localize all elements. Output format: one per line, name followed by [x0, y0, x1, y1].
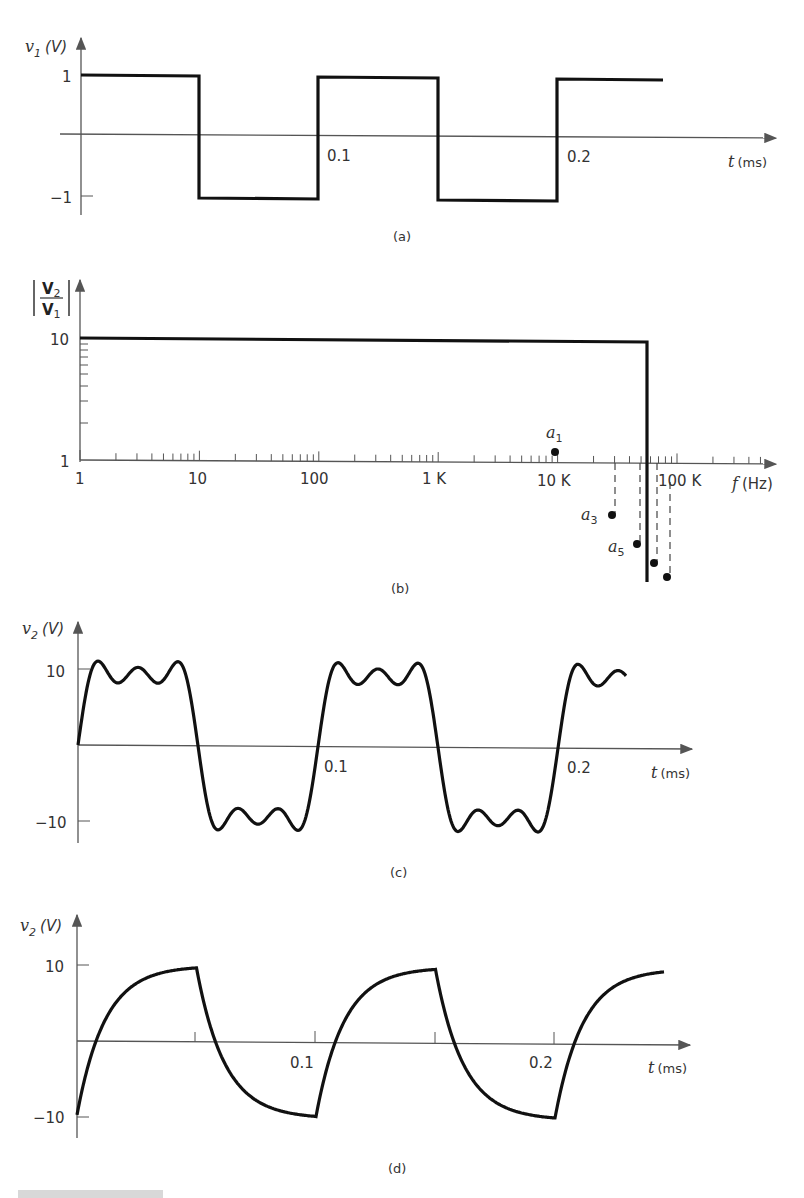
y-tick-label-neg: −10 [35, 814, 67, 832]
x-axis [60, 134, 776, 138]
x-axis-label: f(Hz) [731, 474, 773, 493]
svg-text:V2: V2 [42, 280, 61, 300]
panel-d: v2(V) 10 −10 0.1 0.2 t(ms) (d) [20, 915, 690, 1176]
y-tick-label-neg: −1 [50, 189, 72, 207]
y-axis-label: v1(V) [25, 37, 67, 60]
y-tick-label-neg: −10 [33, 1109, 65, 1127]
y-axis-label: v2(V) [20, 916, 62, 939]
harmonic-a9-dot [663, 573, 671, 581]
caption-b: (b) [391, 581, 409, 596]
x-tick-label-1k: 1 K [422, 470, 447, 488]
y-tick-label-1: 1 [60, 453, 70, 471]
x-axis-label: t(ms) [728, 152, 767, 171]
caption-a: (a) [393, 229, 411, 244]
harmonic-a5-dot [633, 540, 641, 548]
x-tick-label-1: 0.1 [324, 758, 348, 776]
x-axis [78, 745, 692, 749]
x-axis-label: t(ms) [651, 763, 690, 782]
x-tick-label-10: 10 [188, 470, 207, 488]
harmonic-a7-dot [650, 559, 658, 567]
svg-text:V1: V1 [42, 301, 61, 321]
x-tick-label-10k: 10 K [537, 472, 572, 490]
figure: v1(V) 1 −1 0.1 0.2 t(ms) (a) [0, 0, 804, 1198]
y-minor-ticks [80, 344, 88, 423]
y-tick-label-pos: 10 [45, 958, 64, 976]
y-tick-label-pos: 1 [62, 68, 72, 86]
caption-d: (d) [388, 1161, 406, 1176]
panel-c: v2(V) 10 −10 0.1 0.2 t(ms) (c) [22, 619, 692, 880]
harmonic-a1-dot [551, 448, 559, 456]
y-axis-label: V2 V1 [34, 280, 69, 321]
x-tick-label-100k: 100 K [658, 472, 702, 490]
label-a5: a5 [608, 537, 625, 559]
panel-b: V2 V1 10 1 1 10 100 1 K 10 K 100 K f(Hz)… [34, 280, 776, 596]
harmonic-a3-dot [608, 511, 616, 519]
y-axis-label: v2(V) [22, 619, 64, 642]
x-axis [77, 1041, 690, 1045]
x-tick-label-100: 100 [300, 470, 329, 488]
figure-caption-cropped [18, 1190, 163, 1198]
x-tick-label-1: 0.1 [290, 1054, 314, 1072]
y-tick-label-pos: 10 [46, 663, 65, 681]
caption-c: (c) [390, 865, 407, 880]
x-tick-label-2: 0.2 [567, 759, 591, 777]
square-wave [81, 75, 663, 201]
label-a1: a1 [546, 423, 563, 445]
x-axis-label: t(ms) [648, 1058, 687, 1077]
x-tick-label-1: 1 [75, 470, 85, 488]
x-tick-label-1: 0.1 [327, 147, 351, 165]
panel-a: v1(V) 1 −1 0.1 0.2 t(ms) (a) [25, 37, 776, 244]
x-tick-label-2: 0.2 [567, 148, 591, 166]
label-a3: a3 [581, 505, 598, 527]
y-tick-label-10: 10 [50, 331, 69, 349]
x-tick-label-2: 0.2 [529, 1054, 553, 1072]
